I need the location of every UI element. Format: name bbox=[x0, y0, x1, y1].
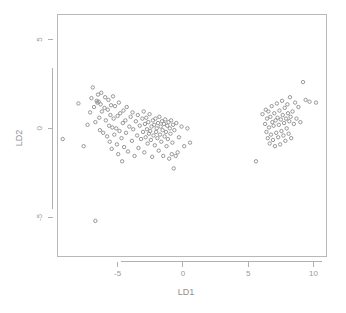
y-tick-label: -5 bbox=[35, 213, 44, 221]
x-axis-title: LD1 bbox=[178, 287, 195, 297]
y-axis-title: LD2 bbox=[14, 130, 24, 147]
figure-background bbox=[0, 0, 346, 313]
y-tick-label: 0 bbox=[35, 126, 44, 131]
y-tick-label: 5 bbox=[35, 37, 44, 42]
x-tick-label: -5 bbox=[114, 269, 122, 278]
x-tick-label: 10 bbox=[309, 269, 318, 278]
plot-canvas: 50-5 -50510 LD1 LD2 bbox=[0, 0, 346, 313]
x-tick-label: 5 bbox=[246, 269, 251, 278]
scatter-plot-figure: 50-5 -50510 LD1 LD2 bbox=[0, 0, 346, 313]
x-tick-label: 0 bbox=[181, 269, 186, 278]
